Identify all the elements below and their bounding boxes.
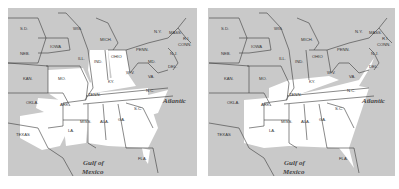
label-mass: MASS.: [369, 30, 382, 35]
label-miss: MISS.: [281, 119, 292, 124]
label-ny: N.Y.: [355, 29, 363, 34]
label-neb: NEB.: [221, 51, 231, 56]
label-ill: ILL.: [78, 56, 85, 61]
label-nj: N.J.: [170, 51, 177, 56]
label-nj: N.J.: [371, 51, 378, 56]
label-kan: KAN.: [224, 76, 234, 81]
label-penn: PENN.: [136, 47, 149, 52]
label-ri: R.I.: [382, 36, 389, 41]
gulf-label-line2: Mexico: [81, 168, 104, 176]
label-mo: MO.: [259, 76, 267, 81]
label-fla: FLA.: [138, 156, 147, 161]
label-texas: TEXAS: [16, 132, 30, 137]
gulf-label-line1: Gulf of: [284, 159, 305, 167]
label-wis: WIS.: [274, 26, 283, 31]
label-sd: S.D.: [20, 26, 28, 31]
label-conn: CONN.: [377, 42, 391, 47]
label-md: MD.: [148, 59, 156, 64]
label-texas: TEXAS: [217, 132, 231, 137]
label-ri: R.I.: [183, 36, 190, 41]
label-ala: ALA.: [301, 119, 310, 124]
label-ark: ARK.: [261, 102, 271, 107]
label-ky: KY.: [108, 79, 114, 84]
label-tenn: TENN.: [289, 92, 302, 97]
label-ala: ALA.: [100, 119, 109, 124]
label-mo: MO.: [58, 76, 66, 81]
label-la: LA.: [68, 128, 74, 133]
label-del: DEL.: [369, 64, 378, 69]
us-eastern-map-left: S.D. NEB. KAN. OKLA. TEXAS IOWA MO. ARK.…: [8, 8, 197, 176]
label-mich: MICH.: [301, 37, 313, 42]
label-neb: NEB.: [20, 51, 30, 56]
map-panel-left: S.D. NEB. KAN. OKLA. TEXAS IOWA MO. ARK.…: [8, 8, 197, 176]
atlantic-label: Atlantic: [361, 97, 385, 105]
label-wv: W.V.: [126, 70, 134, 75]
atlantic-label: Atlantic: [162, 97, 186, 105]
label-ky: KY.: [309, 79, 315, 84]
label-ny: N.Y.: [154, 29, 162, 34]
label-del: DEL.: [168, 64, 177, 69]
label-wis: WIS.: [73, 26, 82, 31]
label-conn: CONN.: [178, 42, 192, 47]
label-fla: FLA.: [339, 156, 348, 161]
label-ga: GA.: [319, 117, 326, 122]
label-sc: S.C.: [335, 106, 343, 111]
label-tenn: TENN.: [88, 92, 101, 97]
label-sd: S.D.: [221, 26, 229, 31]
label-sc: S.C.: [134, 106, 142, 111]
label-nc: N.C.: [146, 88, 154, 93]
label-iowa: IOWA: [50, 44, 61, 49]
us-eastern-map-right: S.D. NEB. KAN. OKLA. TEXAS IOWA MO. ARK.…: [208, 8, 395, 176]
label-okla: OKLA.: [26, 100, 38, 105]
label-kan: KAN.: [23, 76, 33, 81]
map-panel-right: S.D. NEB. KAN. OKLA. TEXAS IOWA MO. ARK.…: [208, 8, 395, 176]
label-iowa: IOWA: [251, 44, 262, 49]
gulf-label-line2: Mexico: [282, 168, 305, 176]
label-penn: PENN.: [337, 47, 350, 52]
label-wv: W.V.: [327, 70, 335, 75]
label-la: LA.: [269, 128, 275, 133]
label-ind: IND.: [295, 59, 303, 64]
label-ark: ARK.: [60, 102, 70, 107]
label-ohio: OHIO: [111, 54, 122, 59]
label-mich: MICH.: [100, 37, 112, 42]
label-miss: MISS.: [80, 119, 91, 124]
label-ind: IND.: [94, 59, 102, 64]
label-nc: N.C.: [347, 88, 355, 93]
label-mass: MASS.: [169, 30, 182, 35]
gulf-label-line1: Gulf of: [83, 159, 104, 167]
label-va: VA.: [349, 74, 355, 79]
label-va: VA.: [148, 74, 154, 79]
label-okla: OKLA.: [227, 100, 239, 105]
label-ohio: OHIO: [312, 54, 323, 59]
label-ga: GA.: [118, 117, 125, 122]
label-ill: ILL.: [279, 56, 286, 61]
